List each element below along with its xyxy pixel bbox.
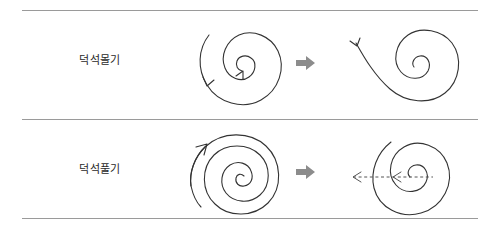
row-label-unrolling: 덕석풀기 [40,162,160,176]
row-label-rolling: 덕석몰기 [40,53,160,67]
separator-arrow-unrolling [294,162,318,182]
dense-spiral-unrolling [158,120,306,226]
separator-arrow-rolling [294,53,318,73]
spiral-with-tail [348,13,470,117]
diagram-row-rolling: 덕석몰기 [0,11,500,119]
spiral-with-unwind-arrows [345,120,473,226]
spiral-rolling-in [185,13,297,117]
diagram-row-unrolling: 덕석풀기 [0,120,500,228]
figure-root: 덕석몰기 [0,0,500,235]
